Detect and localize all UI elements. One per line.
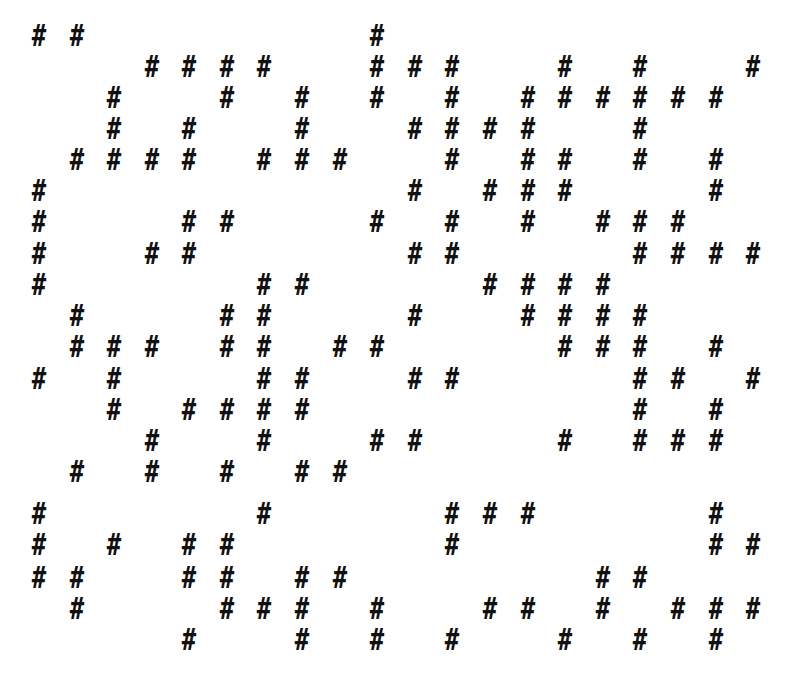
hash-symbol: # [405,174,425,209]
hash-symbol: # [518,174,538,209]
hash-symbol: # [442,237,462,272]
hash-symbol: # [29,205,49,240]
hash-symbol: # [480,174,500,209]
hash-symbol: # [706,424,726,459]
hash-symbol: # [555,424,575,459]
hash-symbol: # [292,592,312,627]
hash-symbol: # [630,81,650,116]
hash-symbol: # [29,174,49,209]
hash-symbol: # [668,424,688,459]
hash-symbol: # [67,330,87,365]
hash-symbol: # [630,561,650,596]
hash-symbol: # [630,50,650,85]
hash-symbol: # [743,592,763,627]
hash-symbol: # [142,237,162,272]
hash-symbol: # [706,393,726,428]
hash-symbol: # [743,528,763,563]
hash-symbol: # [179,561,199,596]
hash-symbol: # [179,50,199,85]
hash-symbol: # [706,497,726,532]
hash-symbol: # [29,362,49,397]
hash-symbol: # [593,205,613,240]
hash-symbol: # [292,268,312,303]
hash-symbol: # [367,424,387,459]
hash-symbol: # [217,299,237,334]
hash-symbol: # [142,330,162,365]
hash-symbol: # [367,623,387,658]
hash-symbol: # [593,592,613,627]
hash-symbol: # [518,497,538,532]
hash-symbol: # [254,143,274,178]
hash-symbol: # [706,174,726,209]
hash-symbol: # [104,143,124,178]
hash-symbol: # [518,205,538,240]
hash-symbol: # [668,362,688,397]
hash-symbol: # [217,393,237,428]
hash-symbol: # [292,455,312,490]
hash-symbol: # [179,528,199,563]
hash-symbol: # [706,528,726,563]
hash-symbol: # [67,299,87,334]
hash-symbol: # [367,592,387,627]
hash-symbol: # [518,81,538,116]
hash-symbol: # [630,112,650,147]
hash-symbol: # [217,50,237,85]
hash-symbol: # [367,50,387,85]
hash-symbol: # [142,424,162,459]
hash-symbol: # [555,623,575,658]
hash-symbol: # [67,455,87,490]
hash-symbol: # [292,112,312,147]
hash-symbol: # [518,143,538,178]
hash-symbol: # [743,362,763,397]
hash-symbol: # [593,268,613,303]
hash-symbol: # [668,81,688,116]
hash-symbol: # [442,623,462,658]
hash-symbol: # [706,592,726,627]
hash-symbol: # [104,528,124,563]
hash-symbol: # [29,237,49,272]
hash-symbol: # [330,455,350,490]
hash-symbol: # [29,528,49,563]
hash-symbol: # [254,50,274,85]
hash-symbol: # [292,362,312,397]
hash-symbol: # [179,393,199,428]
hash-symbol: # [630,393,650,428]
hash-symbol: # [254,299,274,334]
hash-symbol: # [593,330,613,365]
hash-symbol: # [706,623,726,658]
hash-symbol: # [179,112,199,147]
hash-symbol: # [367,330,387,365]
hash-symbol: # [29,19,49,54]
hash-symbol: # [480,112,500,147]
hash-symbol: # [442,362,462,397]
hash-symbol: # [405,112,425,147]
hash-symbol: # [706,330,726,365]
hash-symbol: # [29,561,49,596]
hash-symbol: # [593,561,613,596]
hash-symbol: # [442,497,462,532]
hash-symbol: # [142,455,162,490]
hash-symbol: # [405,299,425,334]
hash-symbol: # [254,330,274,365]
hash-symbol: # [668,205,688,240]
hash-symbol: # [67,19,87,54]
hash-symbol: # [630,362,650,397]
hash-symbol: # [292,143,312,178]
hash-symbol: # [706,81,726,116]
hash-symbol: # [217,561,237,596]
hash-symbol: # [292,623,312,658]
hash-symbol: # [142,143,162,178]
hash-symbol: # [555,330,575,365]
hash-symbol: # [555,50,575,85]
hash-symbol: # [254,362,274,397]
hash-symbol: # [442,143,462,178]
hash-symbol: # [104,112,124,147]
hash-symbol: # [480,268,500,303]
hash-symbol: # [330,330,350,365]
hash-symbol: # [179,237,199,272]
hash-symbol: # [217,528,237,563]
hash-symbol: # [405,50,425,85]
hash-symbol: # [518,592,538,627]
hash-symbol: # [555,143,575,178]
hash-symbol: # [367,205,387,240]
